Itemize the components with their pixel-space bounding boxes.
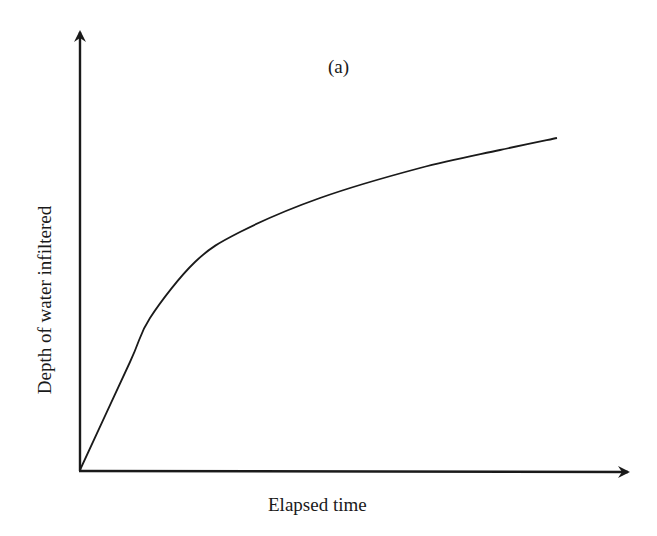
infiltration-curve xyxy=(80,138,557,470)
x-axis xyxy=(79,471,628,472)
x-axis-label: Elapsed time xyxy=(268,494,367,516)
panel-label: (a) xyxy=(328,56,349,78)
y-axis-label: Depth of water infiltered xyxy=(34,206,56,394)
chart-canvas xyxy=(0,0,657,536)
